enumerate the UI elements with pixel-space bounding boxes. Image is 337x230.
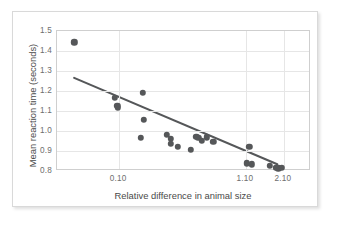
- y-axis-tick-label: 0.8: [40, 166, 52, 175]
- gridline-vertical: [284, 31, 285, 169]
- chart-figure: Mean reaction time (seconds) 1.51.41.31.…: [0, 0, 337, 230]
- gridline-horizontal: [57, 71, 309, 72]
- y-axis-tick-label: 1.2: [40, 86, 52, 95]
- gridline-horizontal: [57, 151, 309, 152]
- y-axis-tick-labels: 1.51.41.31.21.11.00.90.8: [28, 30, 52, 170]
- x-axis-title: Relative difference in animal size: [56, 190, 310, 201]
- gridline-horizontal: [57, 91, 309, 92]
- y-axis-tick-label: 1.3: [40, 66, 52, 75]
- x-axis-tick-label: 0.10: [110, 174, 127, 183]
- y-axis-tick-label: 0.9: [40, 146, 52, 155]
- gridline-horizontal: [57, 51, 309, 52]
- x-axis-tick-label: 1.10: [237, 174, 254, 183]
- x-axis-tick-labels: 0.101.102.10: [56, 174, 310, 186]
- plot-area: [56, 30, 310, 170]
- x-axis-tick-label: 2.10: [274, 174, 291, 183]
- gridline-horizontal: [57, 111, 309, 112]
- y-axis-tick-label: 1.0: [40, 126, 52, 135]
- y-axis-tick-label: 1.4: [40, 46, 52, 55]
- y-axis-tick-label: 1.5: [40, 26, 52, 35]
- gridline-vertical: [119, 31, 120, 169]
- y-axis-tick-label: 1.1: [40, 106, 52, 115]
- gridline-horizontal: [57, 131, 309, 132]
